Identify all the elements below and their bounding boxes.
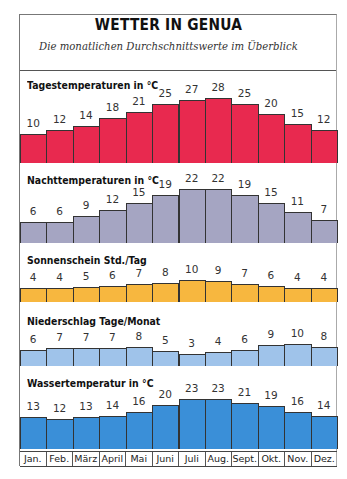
bar	[205, 399, 232, 449]
bar	[311, 130, 338, 163]
bar	[311, 288, 338, 302]
bar	[126, 112, 153, 163]
bar	[179, 189, 206, 243]
value-label: 10	[284, 327, 310, 339]
bar-group: 131213141620232321191614	[20, 373, 337, 449]
value-label: 4	[284, 271, 310, 283]
bar	[258, 203, 285, 243]
month-label: April	[100, 452, 127, 466]
value-label: 15	[126, 186, 152, 198]
value-label: 7	[232, 267, 258, 279]
value-label: 4	[311, 271, 337, 283]
value-label: 12	[47, 402, 73, 414]
bar	[99, 118, 126, 163]
bar	[126, 347, 153, 366]
value-label: 23	[205, 382, 231, 394]
bar	[152, 195, 179, 243]
section-day-temp: Tagestemperaturen in °C10121418212527282…	[20, 75, 337, 163]
bar	[126, 284, 153, 302]
bar	[284, 124, 311, 163]
month-label: Nov.	[285, 452, 312, 466]
value-label: 25	[232, 87, 258, 99]
value-label: 28	[205, 81, 231, 93]
bar	[179, 280, 206, 302]
bar	[284, 212, 311, 243]
bar	[284, 344, 311, 366]
value-label: 12	[311, 113, 337, 125]
bar	[20, 417, 47, 449]
value-label: 18	[99, 101, 125, 113]
bar-group: 66912151922221915117	[20, 170, 337, 243]
bar	[46, 222, 73, 243]
bar	[205, 189, 232, 243]
value-label: 19	[232, 178, 258, 190]
bar	[205, 352, 232, 366]
bar	[99, 286, 126, 302]
value-label: 9	[73, 199, 99, 211]
bar	[99, 210, 126, 243]
bar	[311, 220, 338, 243]
bar	[179, 399, 206, 449]
month-label: Juli	[179, 452, 206, 466]
value-label: 10	[179, 263, 205, 275]
value-label: 27	[179, 83, 205, 95]
value-label: 3	[179, 337, 205, 349]
value-label: 23	[179, 382, 205, 394]
value-label: 9	[205, 264, 231, 276]
value-label: 9	[258, 328, 284, 340]
value-label: 21	[126, 95, 152, 107]
section-precipitation: Niederschlag Tage/Monat6777853469108	[20, 311, 337, 366]
bar	[20, 288, 47, 302]
bar-group: 101214182125272825201512	[20, 75, 337, 163]
value-label: 7	[47, 331, 73, 343]
month-label: Feb.	[47, 452, 74, 466]
value-label: 7	[311, 203, 337, 215]
bar	[46, 348, 73, 366]
bar	[99, 416, 126, 449]
bar	[231, 284, 258, 302]
month-axis: Jan.Feb.MärzAprilMaiJuniJuliAug.Sept.Okt…	[20, 451, 337, 467]
value-label: 4	[205, 335, 231, 347]
value-label: 6	[47, 205, 73, 217]
bar-group: 6777853469108	[20, 311, 337, 366]
bar	[20, 222, 47, 243]
bar	[73, 287, 100, 302]
value-label: 19	[258, 389, 284, 401]
value-label: 6	[99, 269, 125, 281]
bar	[205, 98, 232, 163]
month-label: Mai	[126, 452, 153, 466]
value-label: 16	[126, 395, 152, 407]
bar	[231, 195, 258, 243]
bar	[126, 203, 153, 243]
bar	[179, 354, 206, 366]
value-label: 20	[152, 388, 178, 400]
bar	[99, 348, 126, 366]
value-label: 7	[73, 331, 99, 343]
bar	[46, 130, 73, 163]
value-label: 12	[99, 193, 125, 205]
value-label: 21	[232, 386, 258, 398]
bar	[20, 134, 47, 163]
value-label: 8	[152, 266, 178, 278]
value-label: 22	[179, 172, 205, 184]
value-label: 15	[284, 107, 310, 119]
value-label: 14	[311, 399, 337, 411]
bar	[73, 348, 100, 366]
value-label: 10	[20, 117, 46, 129]
value-label: 4	[47, 271, 73, 283]
value-label: 11	[284, 195, 310, 207]
subtitle: Die monatlichen Durchschnittswerte im Üb…	[21, 39, 316, 53]
bar	[126, 412, 153, 449]
weather-chart-frame: WETTER IN GENUA Die monatlichen Durchsch…	[19, 14, 337, 466]
bar	[73, 216, 100, 243]
month-label: Sept.	[232, 452, 259, 466]
bar	[152, 351, 179, 366]
bar	[46, 288, 73, 302]
month-label: Aug.	[206, 452, 233, 466]
value-label: 14	[99, 399, 125, 411]
value-label: 20	[258, 97, 284, 109]
value-label: 16	[284, 395, 310, 407]
bar	[231, 104, 258, 163]
bar	[205, 281, 232, 302]
value-label: 7	[126, 267, 152, 279]
